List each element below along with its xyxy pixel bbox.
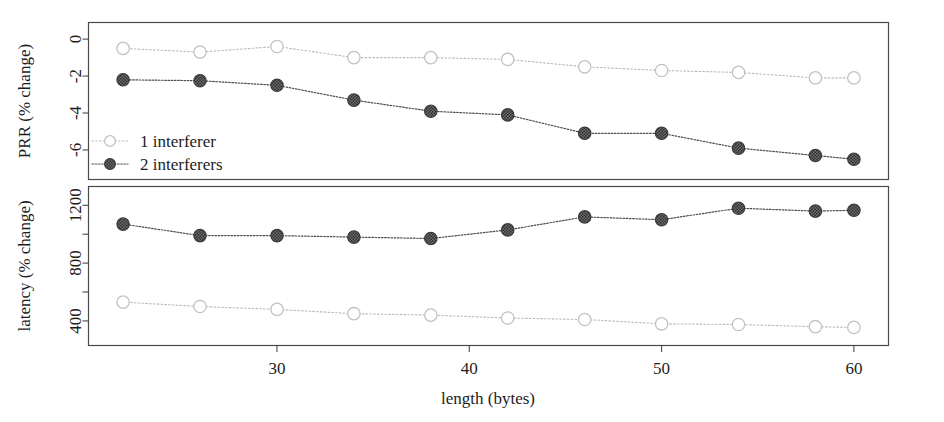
data-point-series-1 (425, 309, 437, 321)
data-point-series-2 (502, 224, 514, 236)
panel-prr-yticks (83, 39, 89, 150)
data-point-series-2 (425, 105, 437, 117)
data-point-series-2 (848, 204, 860, 216)
legend-entry-2: 2 interferers (92, 155, 223, 174)
data-point-series-2 (732, 142, 744, 154)
figure-container: 0-2-4-6 PRR (% change) 1 interferer 2 in… (0, 0, 944, 422)
legend-marker-filled-circle-icon (105, 159, 116, 170)
data-point-series-1 (809, 321, 821, 333)
legend-label-1: 1 interferer (140, 132, 216, 151)
legend-label-2: 2 interferers (140, 155, 223, 174)
panel-latency: 4008001200 latency (% change) 30405060 (15, 187, 889, 379)
x-axis-label: length (bytes) (441, 389, 535, 408)
data-point-series-1 (117, 42, 129, 54)
data-point-series-2 (271, 79, 283, 91)
data-point-series-1 (348, 51, 360, 63)
panel-prr-ytick-labels: 0-2-4-6 (66, 35, 85, 157)
ytick-label: 400 (66, 308, 85, 334)
x-axis-tick-labels: 30405060 (268, 359, 862, 378)
data-point-series-1 (848, 72, 860, 84)
panel-prr-series (117, 40, 860, 165)
data-point-series-1 (348, 308, 360, 320)
data-point-series-1 (271, 303, 283, 315)
data-point-series-1 (655, 318, 667, 330)
data-point-series-1 (194, 300, 206, 312)
x-axis-ticks (277, 346, 854, 353)
data-point-series-2 (809, 149, 821, 161)
xtick-label: 30 (268, 359, 285, 378)
data-point-series-2 (117, 74, 129, 86)
data-point-series-1 (655, 64, 667, 76)
data-point-series-2 (732, 202, 744, 214)
panel-latency-series (117, 202, 860, 334)
ytick-label: -2 (66, 69, 85, 83)
data-point-series-2 (655, 214, 667, 226)
data-point-series-2 (655, 127, 667, 139)
xtick-label: 60 (845, 359, 862, 378)
data-point-series-2 (348, 94, 360, 106)
data-point-series-1 (194, 46, 206, 58)
ytick-label: -4 (66, 105, 85, 120)
data-point-series-1 (848, 321, 860, 333)
data-point-series-2 (194, 75, 206, 87)
ytick-label: -6 (66, 143, 85, 157)
data-point-series-2 (271, 229, 283, 241)
data-point-series-2 (502, 109, 514, 121)
xtick-label: 50 (653, 359, 670, 378)
legend-marker-open-circle-icon (105, 136, 116, 147)
data-point-series-2 (194, 229, 206, 241)
data-point-series-1 (732, 318, 744, 330)
panel-latency-ytick-labels: 4008001200 (66, 188, 85, 333)
ytick-label: 0 (66, 35, 85, 44)
data-point-series-2 (579, 127, 591, 139)
legend-entry-1: 1 interferer (92, 132, 216, 151)
data-point-series-2 (348, 231, 360, 243)
data-point-series-1 (502, 53, 514, 65)
ytick-label: 1200 (66, 188, 85, 222)
data-point-series-1 (579, 313, 591, 325)
data-point-series-1 (502, 312, 514, 324)
data-point-series-2 (117, 218, 129, 230)
ytick-label: 800 (66, 250, 85, 276)
data-point-series-2 (425, 232, 437, 244)
data-point-series-1 (425, 51, 437, 63)
data-point-series-2 (809, 205, 821, 217)
legend: 1 interferer 2 interferers (92, 132, 223, 174)
panel-latency-ylabel: latency (% change) (15, 200, 34, 331)
panel-latency-frame (89, 187, 889, 346)
data-point-series-1 (271, 40, 283, 52)
chart-svg: 0-2-4-6 PRR (% change) 1 interferer 2 in… (0, 0, 944, 422)
panel-prr-ylabel: PRR (% change) (15, 44, 34, 158)
data-point-series-1 (579, 61, 591, 73)
data-point-series-1 (809, 72, 821, 84)
data-point-series-2 (848, 153, 860, 165)
series-line-2 (123, 208, 854, 238)
xtick-label: 40 (461, 359, 478, 378)
data-point-series-1 (117, 296, 129, 308)
data-point-series-2 (579, 211, 591, 223)
data-point-series-1 (732, 66, 744, 78)
